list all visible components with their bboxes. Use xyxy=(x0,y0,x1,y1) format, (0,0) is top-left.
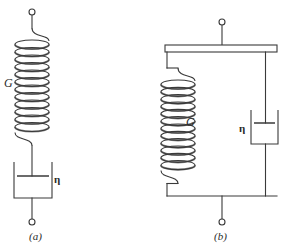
terminal-node-top-b xyxy=(219,19,225,25)
panel-caption-a: (a) xyxy=(29,231,42,242)
spring-lead-out xyxy=(15,133,32,146)
dashpot-viscosity-label-a: η xyxy=(54,174,60,185)
panel-caption-b: (b) xyxy=(214,231,227,242)
spring-lead-out xyxy=(161,171,178,184)
dashpot-viscosity-label-b: η xyxy=(239,123,245,134)
spring-lead-in xyxy=(32,28,49,41)
spring-modulus-label-a: G xyxy=(4,77,13,89)
dashpot-b xyxy=(251,110,278,144)
rigid-bar-b xyxy=(165,45,277,52)
dashpot-a xyxy=(14,162,52,198)
terminal-node-top-a xyxy=(29,9,35,15)
mechanical-model-diagram xyxy=(0,0,299,252)
spring-lead-in xyxy=(178,68,195,81)
spring-coil-shade xyxy=(161,165,195,170)
dashpot-cylinder xyxy=(251,110,278,144)
terminal-node-bottom-a xyxy=(29,219,35,225)
terminal-node-bottom-b xyxy=(219,219,225,225)
spring-modulus-label-b: G xyxy=(186,116,195,128)
figure-canvas: G η (a) G η (b) xyxy=(0,0,299,252)
spring-coil-shade xyxy=(15,127,49,132)
diagram-vector-layer xyxy=(14,9,278,225)
spring-a xyxy=(15,28,49,146)
dashpot-cylinder xyxy=(14,162,52,198)
